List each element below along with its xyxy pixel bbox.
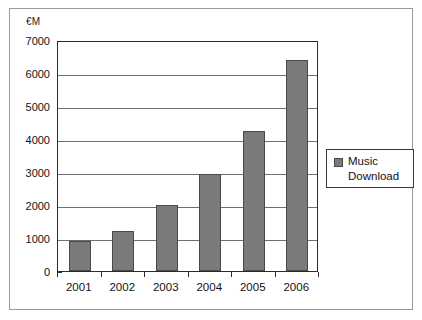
- legend-label-line2: Download: [348, 169, 412, 184]
- y-axis-tick-label: 6000: [26, 68, 50, 80]
- x-axis-tick-label: 2005: [240, 281, 266, 293]
- x-axis-tick-mark: [188, 272, 189, 277]
- bar-2004: [199, 174, 221, 271]
- x-axis-tick-label: 2002: [109, 281, 135, 293]
- y-axis-tick-label: 4000: [26, 134, 50, 146]
- y-axis-unit-label: €M: [26, 16, 40, 27]
- x-axis-tick-label: 2001: [66, 281, 92, 293]
- y-axis-tick-label: 5000: [26, 101, 50, 113]
- y-axis-tick-label: 2000: [26, 200, 50, 212]
- y-axis-tick-labels: 01000200030004000500060007000: [10, 41, 50, 272]
- x-axis-tick-mark: [275, 272, 276, 277]
- y-axis-tick-label: 7000: [26, 35, 50, 47]
- chart-screenshot: €M 01000200030004000500060007000 2001200…: [0, 0, 422, 320]
- x-axis-tick-marks: [57, 272, 318, 278]
- y-axis-tick-label: 1000: [26, 233, 50, 245]
- bar-series-music-download: [58, 42, 317, 271]
- legend-swatch-music-download: [334, 158, 343, 167]
- bar-2005: [243, 131, 265, 271]
- bar-chart: €M 01000200030004000500060007000 2001200…: [0, 0, 422, 320]
- x-axis-tick-label: 2003: [153, 281, 179, 293]
- x-axis-tick-mark: [231, 272, 232, 277]
- bar-2003: [156, 205, 178, 271]
- bar-2001: [69, 241, 91, 271]
- chart-legend: Music Download: [326, 149, 414, 188]
- y-axis-tick-label: 0: [44, 266, 50, 278]
- legend-label-line1: Music: [348, 155, 378, 167]
- bar-2006: [286, 60, 308, 271]
- x-axis-tick-mark: [144, 272, 145, 277]
- y-axis-tick-label: 3000: [26, 167, 50, 179]
- legend-label-music-download: Music Download: [348, 154, 412, 183]
- bar-2002: [112, 231, 134, 271]
- x-axis-tick-label: 2006: [283, 281, 309, 293]
- x-axis-tick-label: 2004: [196, 281, 222, 293]
- x-axis-tick-mark: [318, 272, 319, 277]
- x-axis-tick-mark: [57, 272, 58, 277]
- plot-area: [57, 41, 318, 272]
- x-axis-tick-labels: 200120022003200420052006: [57, 281, 318, 299]
- x-axis-tick-mark: [101, 272, 102, 277]
